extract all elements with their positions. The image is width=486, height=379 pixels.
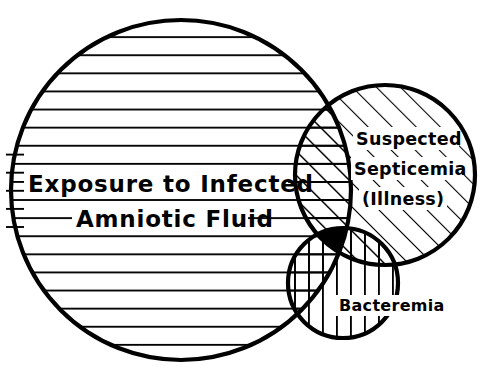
bacteremia-label-group: Bacteremia	[336, 295, 445, 316]
septicemia-label-line1: Suspected	[356, 129, 462, 149]
exposure-label-line1: Exposure to Infected	[28, 171, 314, 197]
venn-diagram-svg: Exposure to Infected Amniotic Fluid Susp…	[0, 0, 486, 379]
septicemia-label-line2: Septicemia	[354, 159, 467, 179]
exposure-label-line2: Amniotic Fluid	[76, 206, 274, 232]
venn-diagram-canvas: Exposure to Infected Amniotic Fluid Susp…	[0, 0, 486, 379]
septicemia-label-line3: (Illness)	[362, 189, 444, 209]
bacteremia-label: Bacteremia	[339, 296, 445, 315]
